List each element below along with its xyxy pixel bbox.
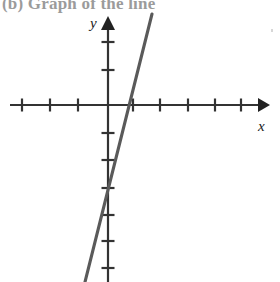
x-axis-label: x [257,118,265,134]
y-axis-label: y [88,15,97,31]
coordinate-plane-svg: x y [0,0,280,282]
x-axis-arrowhead [258,98,270,112]
plotted-line [85,14,152,282]
y-axis-arrowhead [101,16,115,30]
figure-container: (b) Graph of the line x [0,0,280,282]
